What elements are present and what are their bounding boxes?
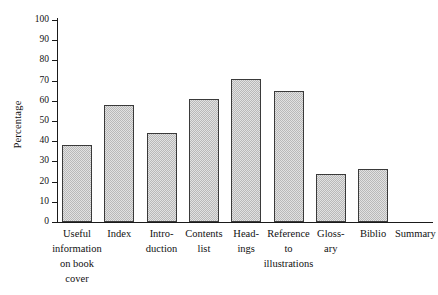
y-axis-tick: 90 (0, 40, 58, 41)
y-axis-tick-mark (52, 40, 58, 41)
y-axis-tick: 80 (0, 60, 58, 61)
bar-slot (189, 99, 219, 222)
y-axis-tick-label: 40 (40, 134, 50, 147)
y-axis-tick: 50 (0, 121, 58, 122)
bar-slot (316, 174, 346, 222)
y-axis-tick: 20 (0, 182, 58, 183)
y-axis-tick-label: 50 (40, 114, 50, 127)
y-axis-tick-mark (52, 20, 58, 21)
y-axis-tick-label: 90 (40, 33, 50, 46)
bar (231, 79, 261, 222)
y-axis-tick: 60 (0, 101, 58, 102)
bar-slot (62, 145, 92, 222)
y-axis-tick-label: 80 (40, 53, 50, 66)
y-axis-tick-mark (52, 222, 58, 223)
bar (147, 133, 177, 222)
y-axis-title: Percentage (8, 78, 26, 174)
y-axis-tick-label: 10 (40, 195, 50, 208)
bar-slot (147, 133, 177, 222)
y-axis-tick-mark (52, 202, 58, 203)
y-axis-tick: 70 (0, 81, 58, 82)
bar-slot (358, 169, 388, 222)
y-axis-tick-label: 30 (40, 154, 50, 167)
y-axis-tick-mark (52, 161, 58, 162)
bar-chart-figure: Percentage 1009080706050403020100 Useful… (0, 0, 438, 295)
y-axis-tick-label: 70 (40, 74, 50, 87)
y-axis-tick-mark (52, 60, 58, 61)
y-axis-tick-mark (52, 121, 58, 122)
y-axis-tick: 40 (0, 141, 58, 142)
x-axis-line (57, 222, 433, 223)
bar (189, 99, 219, 222)
y-axis-title-label: Percentage (12, 77, 23, 173)
bar-slot (274, 91, 304, 222)
y-axis-tick: 0 (0, 222, 58, 223)
bar (274, 91, 304, 222)
y-axis-tick: 10 (0, 202, 58, 203)
y-axis-tick-mark (52, 182, 58, 183)
y-axis-tick-label: 100 (35, 13, 49, 26)
bar (62, 145, 92, 222)
y-axis-tick: 30 (0, 161, 58, 162)
y-axis-tick-mark (52, 101, 58, 102)
y-axis-tick: 100 (0, 20, 58, 21)
x-axis-label: Summary (381, 226, 438, 241)
y-axis-tick-label: 60 (40, 94, 50, 107)
bar (358, 169, 388, 222)
bar (316, 174, 346, 222)
y-axis-tick-mark (52, 81, 58, 82)
bar-slot (231, 79, 261, 222)
y-axis-tick-mark (52, 141, 58, 142)
y-axis-tick-label: 20 (40, 175, 50, 188)
bar-slot (104, 105, 134, 222)
bar (104, 105, 134, 222)
